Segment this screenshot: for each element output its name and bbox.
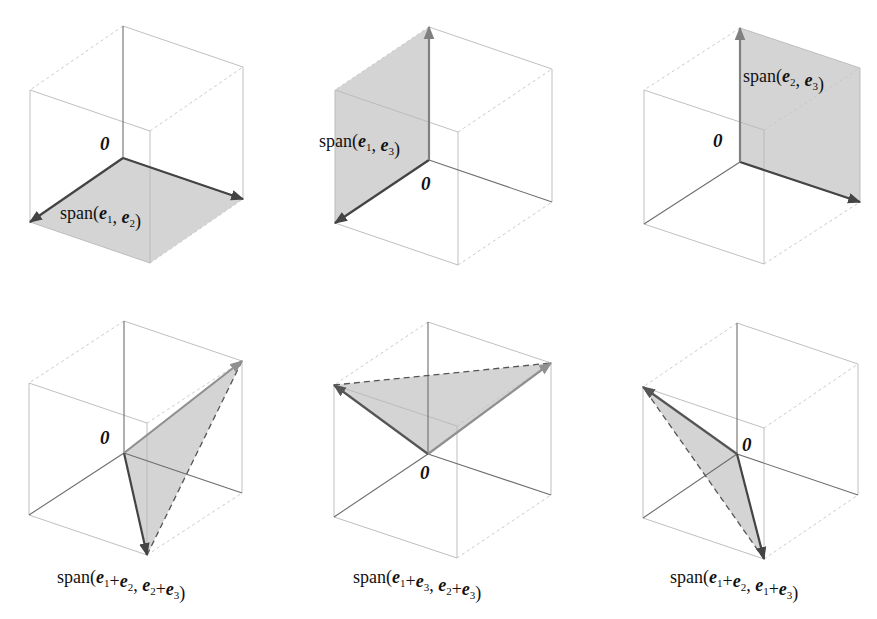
- cube-edge: [644, 28, 740, 90]
- span-label: span(e1+e2, e2+e3): [57, 567, 185, 604]
- cube-panel-span-e1pe3-e2pe3: 0span(e1+e3, e2+e3): [334, 322, 551, 604]
- cube-edge: [123, 26, 243, 67]
- cube-edge: [429, 27, 552, 69]
- cube-edge: [334, 322, 428, 385]
- cube-panel-span-e1-e3: 0span(e1, e3): [319, 27, 552, 265]
- cube-edge: [29, 515, 147, 555]
- cube-edge: [29, 321, 124, 383]
- origin-label: 0: [100, 133, 110, 154]
- axis-e1: [29, 453, 124, 515]
- cube-edge: [30, 90, 150, 131]
- cube-panel-span-e1pe2-e1pe3: 0span(e1+e2, e1+e3): [643, 323, 858, 604]
- cube-panel-span-e1-e2: 0span(e1, e2): [30, 26, 243, 263]
- cube-edge: [458, 202, 552, 265]
- span-plane: [124, 361, 242, 555]
- cube-edge: [643, 323, 737, 387]
- cube-edge: [29, 383, 147, 423]
- figure-canvas: 0span(e1, e2)0span(e1, e3)0span(e2, e3)0…: [0, 0, 877, 619]
- axis-e1: [644, 162, 740, 224]
- span-label: span(e1+e2, e1+e3): [670, 567, 798, 604]
- cube-edge: [764, 202, 860, 264]
- axis-e2: [429, 160, 552, 202]
- cube-edge: [335, 223, 458, 265]
- span-label: span(e1+e3, e2+e3): [353, 567, 481, 604]
- cube-edge: [124, 321, 242, 361]
- span-plane: [335, 27, 429, 223]
- cube-edge: [30, 26, 123, 90]
- cube-edge: [457, 495, 551, 558]
- axis-e2: [428, 454, 551, 495]
- axis-e1: [334, 454, 428, 517]
- cube-edge: [644, 224, 764, 264]
- origin-label: 0: [421, 173, 431, 194]
- axis-e2: [737, 454, 858, 495]
- cube-edge: [737, 323, 858, 364]
- cube-edge: [428, 322, 551, 363]
- cube-panels: 0span(e1, e2)0span(e1, e3)0span(e2, e3)0…: [29, 26, 860, 604]
- origin-label: 0: [420, 462, 430, 483]
- origin-label: 0: [742, 434, 752, 455]
- cube-edge: [764, 495, 858, 559]
- cube-edge: [150, 67, 243, 131]
- origin-label: 0: [100, 427, 110, 448]
- cube-edge: [334, 517, 457, 558]
- origin-label: 0: [713, 130, 723, 151]
- cube-panel-span-e2-e3: 0span(e2, e3): [644, 28, 860, 264]
- cube-edge: [458, 69, 552, 132]
- cube-panel-span-e1pe2-e2pe3: 0span(e1+e2, e2+e3): [29, 321, 242, 604]
- span-plane: [740, 28, 860, 202]
- cube-edge: [764, 364, 858, 428]
